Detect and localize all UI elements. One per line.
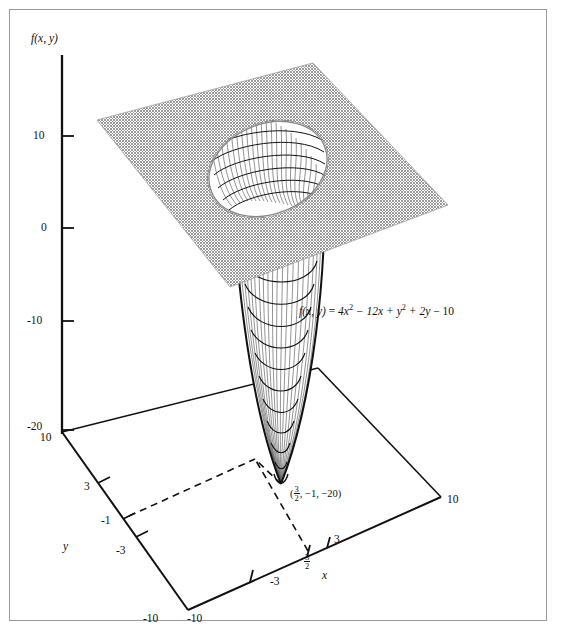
z-tick-label-10: 10 <box>33 130 45 142</box>
x-tick-label-neg10: -10 <box>187 613 202 625</box>
x-axis-label: x <box>322 570 327 582</box>
base-edge-back-right <box>318 368 441 497</box>
equation-term2: − 12x <box>356 305 383 317</box>
x-tick-label-three-halves: 3 2 <box>304 553 310 572</box>
dashed-projection-to-y-axis <box>129 459 255 516</box>
equation-lhs: f(x, y) <box>299 305 326 317</box>
z-axis-label: f(x, y) <box>31 33 58 45</box>
vertex-z-value: −20 <box>321 488 337 499</box>
x-tick-label-10: 10 <box>447 494 459 506</box>
vertex-fraction: 32 <box>294 485 300 504</box>
z-axis-group <box>62 55 74 434</box>
equation-term5: − 10 <box>433 305 454 317</box>
z-tick-label-0: 0 <box>41 222 47 234</box>
equation-equals: = <box>329 305 336 317</box>
equation-annotation: f(x, y) = 4x2 − 12x + y2 + 2y − 10 <box>299 306 454 318</box>
vertex-point-label: (32, −1, −20) <box>290 485 341 504</box>
equation-term4: + 2y <box>409 305 431 317</box>
surface-plot-canvas <box>0 0 562 637</box>
base-plane-axes <box>62 368 441 610</box>
equation-term3: + y2 <box>386 305 406 317</box>
y-tick-label-neg1: -1 <box>101 515 111 527</box>
x-tick-fraction: 3 2 <box>304 553 310 572</box>
y-tick-label-3: 3 <box>84 481 90 493</box>
x-tick-label-3: 3 <box>334 534 340 546</box>
z-tick-label-neg10: -10 <box>27 315 42 327</box>
y-tick-label-neg10: -10 <box>143 613 158 625</box>
vertex-paren-close: ) <box>338 488 342 499</box>
x-axis-line <box>188 497 441 610</box>
vertex-y-value: , −1, <box>300 488 319 499</box>
y-axis-label: y <box>63 541 68 553</box>
x-tick-label-neg3: -3 <box>270 576 280 588</box>
y-tick-label-neg3: -3 <box>116 545 126 557</box>
figure-root: f(x, y) 10 0 -10 -20 y 10 3 -1 -3 -10 x … <box>0 0 562 637</box>
y-tick-3 <box>98 477 110 483</box>
y-tick-label-10: 10 <box>40 432 52 444</box>
y-tick-neg3 <box>136 531 148 537</box>
y-axis-line <box>62 432 188 610</box>
equation-term1: 4x2 <box>338 305 353 317</box>
